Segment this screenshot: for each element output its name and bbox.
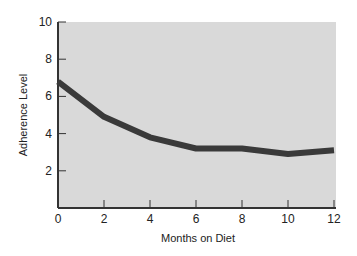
y-tick-label: 2 <box>45 164 52 178</box>
x-tick-label: 2 <box>101 212 108 226</box>
line-chart: 246810 024681012 Months on Diet Adherenc… <box>0 0 357 256</box>
x-tick-label: 12 <box>327 212 341 226</box>
x-tick-label: 10 <box>281 212 295 226</box>
x-axis-title: Months on Diet <box>161 232 235 244</box>
y-tick-label: 10 <box>39 15 53 29</box>
y-tick-label: 4 <box>45 127 52 141</box>
y-tick-label: 6 <box>45 89 52 103</box>
x-tick-label: 0 <box>55 212 62 226</box>
y-axis-title: Adherence Level <box>17 74 29 157</box>
y-tick-label: 8 <box>45 52 52 66</box>
x-tick-label: 6 <box>193 212 200 226</box>
x-tick-label: 8 <box>239 212 246 226</box>
x-tick-label: 4 <box>147 212 154 226</box>
